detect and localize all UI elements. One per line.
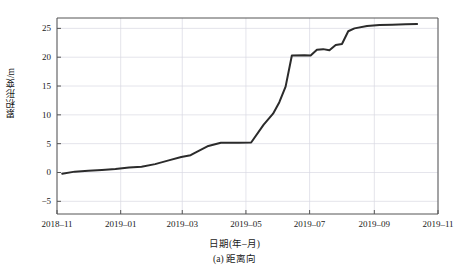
x-tick-label: 2019–07 <box>294 219 326 229</box>
x-tick-label: 2019–11 <box>422 219 453 229</box>
y-tick-label: 15 <box>25 81 51 91</box>
x-tick-label: 2019–01 <box>105 219 137 229</box>
x-tick-label: 2018–11 <box>41 219 72 229</box>
y-tick-label: 0 <box>25 167 51 177</box>
chart-figure: 累积形变/m 日期(年–月) (a) 距离向 −50510152025 2018… <box>0 0 469 275</box>
figure-caption: (a) 距离向 <box>0 251 469 265</box>
plot-background <box>57 18 438 214</box>
x-tick-label: 2019–05 <box>230 219 262 229</box>
y-tick-label: 10 <box>25 110 51 120</box>
x-axis-title: 日期(年–月) <box>0 236 469 250</box>
y-axis-title: 累积形变/m <box>6 68 22 118</box>
y-tick-label: 20 <box>25 52 51 62</box>
chart-canvas <box>0 0 469 275</box>
y-tick-label: 5 <box>25 139 51 149</box>
y-tick-label: 25 <box>25 23 51 33</box>
x-tick-label: 2019–03 <box>167 219 199 229</box>
y-tick-label: −5 <box>25 196 51 206</box>
x-tick-label: 2019–09 <box>359 219 391 229</box>
